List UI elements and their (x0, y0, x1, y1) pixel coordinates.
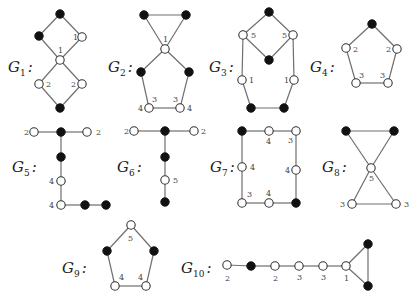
white-vertex (57, 177, 65, 185)
white-vertex (352, 79, 360, 87)
black-vertex (368, 20, 376, 28)
graph-edge (60, 14, 82, 37)
vertex-label: 4 (138, 104, 143, 113)
vertex-label: 4 (285, 166, 290, 175)
vertex-label: 4 (187, 104, 192, 113)
graph-label: G2: (108, 58, 133, 78)
graph-figure: G1:1122G2:13434G3:5511G4:2233G5:2244G6:2… (0, 0, 417, 307)
graph-label: G10: (181, 259, 212, 279)
black-vertex (390, 127, 398, 135)
white-vertex (342, 262, 350, 270)
vertex-label: 4 (250, 163, 255, 172)
graph-g3: G3:5511 (209, 8, 298, 112)
black-vertex (182, 11, 190, 19)
black-vertex (57, 153, 65, 161)
white-vertex (176, 104, 184, 112)
vertex-label: 2 (96, 128, 101, 137)
vertex-label: 2 (273, 274, 278, 283)
graph-edge (60, 37, 82, 60)
vertex-label: 3 (173, 95, 178, 104)
white-vertex (393, 45, 401, 53)
graph-edge (372, 24, 397, 49)
vertex-label: 3 (340, 200, 345, 209)
black-vertex (140, 11, 148, 19)
white-vertex (319, 262, 327, 270)
white-vertex (223, 261, 231, 269)
graph-edge (107, 251, 115, 286)
vertex-label: 2 (225, 274, 230, 283)
graph-edge (388, 49, 397, 83)
vertex-label: 3 (359, 71, 364, 80)
vertex-label: 2 (24, 128, 29, 137)
vertex-label: 1 (58, 46, 63, 55)
vertex-label: 1 (163, 35, 168, 44)
vertex-label: 4 (266, 189, 271, 198)
black-vertex (364, 240, 372, 248)
black-vertex (103, 247, 111, 255)
white-vertex (127, 221, 135, 229)
white-vertex (83, 128, 91, 136)
vertex-label: 2 (386, 45, 391, 54)
white-vertex (392, 200, 400, 208)
white-vertex (190, 127, 198, 135)
black-vertex (102, 201, 110, 209)
vertex-label: 5 (128, 234, 133, 243)
vertex-label: 3 (297, 273, 302, 282)
black-vertex (364, 282, 372, 290)
graph-g1: G1:1122 (8, 10, 86, 112)
white-vertex (30, 128, 38, 136)
white-vertex (57, 201, 65, 209)
vertex-label: 2 (71, 80, 76, 89)
graph-label: G1: (8, 58, 33, 78)
graph-edge (242, 35, 243, 80)
graph-edge (371, 131, 394, 168)
white-vertex (35, 80, 43, 88)
vertex-label: 2 (353, 45, 358, 54)
white-vertex (238, 199, 246, 207)
white-vertex (348, 200, 356, 208)
vertex-label: 1 (249, 76, 254, 85)
graph-label: G5: (12, 158, 37, 178)
vertex-label: 5 (173, 176, 178, 185)
graph-edge (39, 36, 60, 60)
vertex-label: 5 (251, 31, 256, 40)
black-vertex (185, 68, 193, 76)
graph-edge (346, 131, 371, 168)
graph-g10: G10:22331 (181, 240, 372, 290)
white-vertex (292, 127, 300, 135)
vertex-label: 1 (73, 33, 78, 42)
black-vertex (35, 32, 43, 40)
black-vertex (161, 153, 169, 161)
graph-edge (165, 15, 186, 49)
white-vertex (342, 44, 350, 52)
graph-edge (293, 35, 294, 80)
vertex-label: 3 (321, 273, 326, 282)
white-vertex (265, 127, 273, 135)
white-vertex (111, 282, 119, 290)
black-vertex (161, 127, 169, 135)
graph-g2: G2:13434 (108, 11, 193, 113)
graph-label: G7: (210, 158, 235, 178)
graph-label: G4: (310, 58, 335, 78)
black-vertex (56, 10, 64, 18)
black-vertex (247, 262, 255, 270)
vertex-label: 4 (49, 201, 54, 210)
graph-edge (269, 35, 293, 60)
white-vertex (289, 31, 297, 39)
graph-label: G6: (117, 158, 142, 178)
vertex-label: 3 (404, 200, 409, 209)
black-vertex (238, 127, 246, 135)
black-vertex (265, 8, 273, 16)
white-vertex (292, 166, 300, 174)
vertex-label: 5 (282, 31, 287, 40)
white-vertex (239, 31, 247, 39)
vertex-label: 4 (119, 273, 124, 282)
graph-label: G8: (322, 158, 347, 178)
white-vertex (265, 199, 273, 207)
vertex-label: 3 (152, 95, 157, 104)
white-vertex (78, 33, 86, 41)
graph-g8: G8:533 (322, 127, 409, 209)
graph-label: G9: (62, 259, 87, 279)
white-vertex (384, 79, 392, 87)
vertex-label: 3 (247, 190, 252, 199)
